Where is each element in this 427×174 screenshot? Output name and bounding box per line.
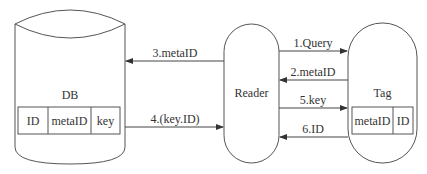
- edge-label-1: 1.Query: [294, 36, 333, 50]
- db-table-cell-id: ID: [27, 114, 40, 128]
- edge-label-2: 2.metaID: [291, 65, 336, 79]
- reader-label: Reader: [235, 86, 269, 100]
- edge-label-5: 5.key: [300, 93, 326, 107]
- db-label: DB: [62, 88, 79, 102]
- tag-table-cell-id: ID: [397, 114, 410, 128]
- edge-label-6: 6.ID: [302, 122, 324, 136]
- diagram-canvas: [0, 0, 427, 174]
- edge-label-3: 3.metaID: [153, 46, 198, 60]
- tag-table-cell-metaid: metaID: [355, 114, 391, 128]
- tag-label: Tag: [374, 86, 392, 100]
- db-table-cell-key: key: [97, 114, 114, 128]
- db-cylinder: [15, 10, 125, 164]
- db-table-cell-metaid: metaID: [52, 114, 88, 128]
- edge-label-4: 4.(key.ID): [150, 112, 199, 126]
